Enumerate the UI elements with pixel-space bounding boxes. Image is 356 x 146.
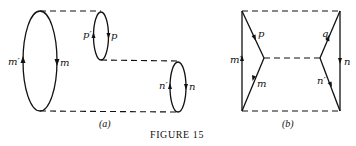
arrow-up-icon <box>92 32 96 38</box>
panel-b-label: (b) <box>282 118 294 130</box>
right-loop <box>170 62 186 112</box>
figure-15-diagram: m′ m p′ p n′ n (a) m′ p m q n′ n (b) FIG… <box>0 0 356 146</box>
arrow-up-icon <box>21 56 26 63</box>
label-m: m <box>257 78 266 89</box>
figure-caption: FIGURE 15 <box>150 129 204 140</box>
label-p: p <box>258 28 265 39</box>
label-n-prime: n′ <box>159 80 168 91</box>
label-m-prime: m′ <box>230 54 242 65</box>
label-p: p <box>111 30 118 41</box>
label-m: m <box>60 57 69 68</box>
arrow-down-icon <box>252 35 257 42</box>
panel-a-label: (a) <box>99 118 111 130</box>
label-n: n <box>344 56 350 67</box>
label-p-prime: p′ <box>83 29 92 40</box>
arrow-down-icon <box>55 59 60 66</box>
arrow-down-icon <box>338 58 342 64</box>
label-n: n <box>189 81 195 92</box>
panel-a: m′ m p′ p n′ n (a) <box>8 11 195 130</box>
dashed-middle-edge <box>101 60 178 61</box>
panel-b: m′ p m q n′ n (b) <box>230 11 350 130</box>
large-loop <box>23 11 57 111</box>
dashed-bottom-edge <box>40 111 178 112</box>
label-n-prime: n′ <box>317 75 326 86</box>
arrow-down-icon <box>184 84 188 90</box>
arrow-down-icon <box>107 33 111 39</box>
label-m-prime: m′ <box>8 56 20 67</box>
small-top-loop <box>94 12 109 60</box>
label-q: q <box>322 28 328 39</box>
arrow-up-icon <box>168 83 172 89</box>
arrow-down-icon <box>328 82 333 88</box>
